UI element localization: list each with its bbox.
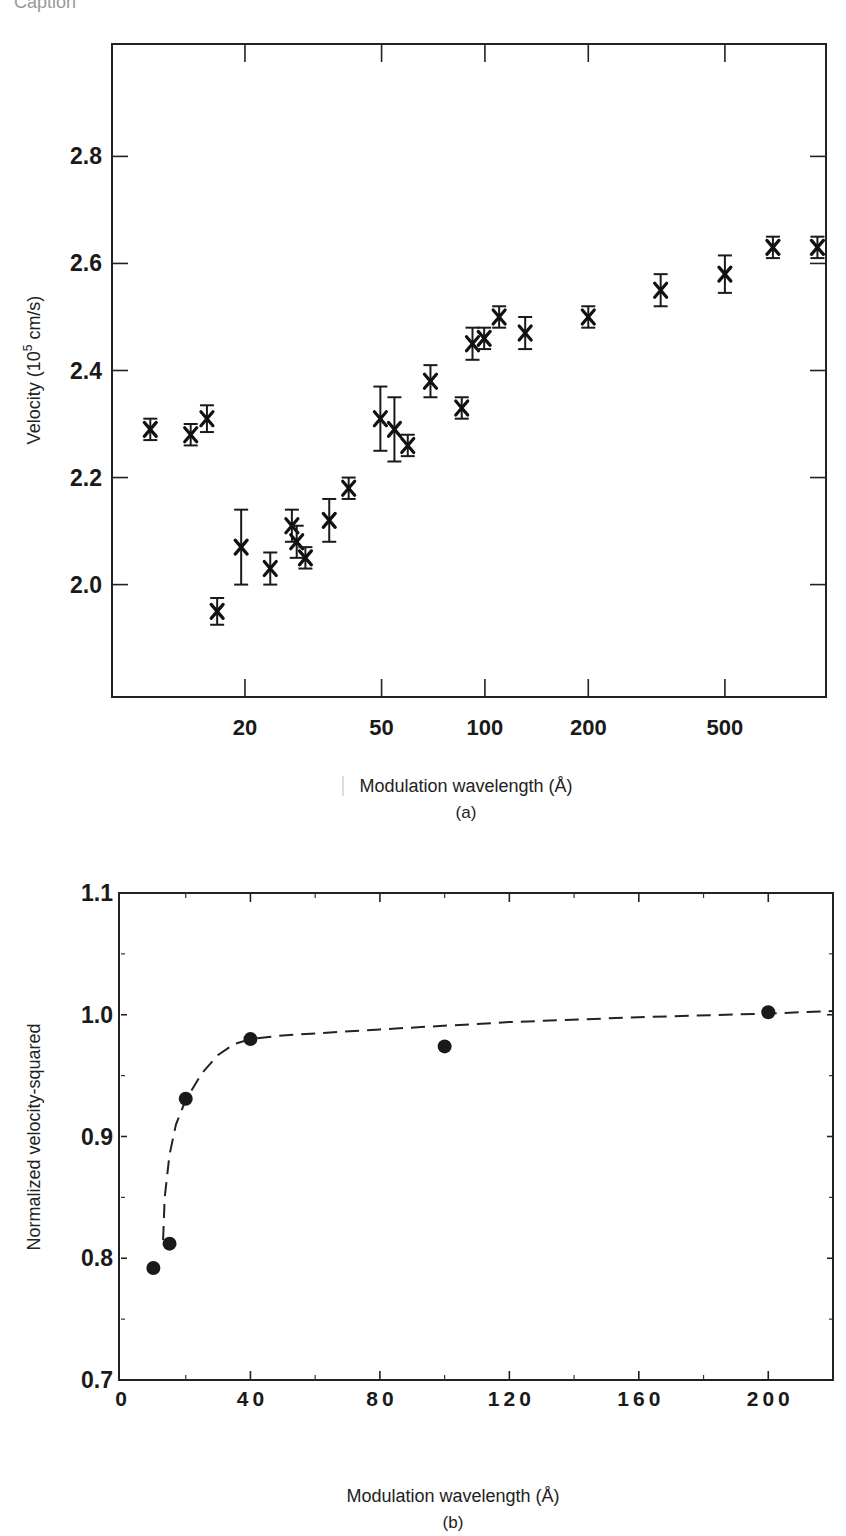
- plot-frame-a: [112, 44, 826, 697]
- panel-label-a: (a): [456, 803, 477, 822]
- y-tick-label: 0.7: [81, 1367, 113, 1393]
- data-point: [387, 397, 401, 461]
- data-point: [184, 424, 198, 445]
- y-axis-label-b: Normalized velocity-squared: [24, 1023, 44, 1250]
- data-point: [423, 365, 437, 397]
- data-point: [654, 274, 668, 306]
- data-point: [518, 317, 532, 349]
- y-tick-label: 1.1: [81, 880, 113, 906]
- axis-ticks-a: 20501002005002.02.22.42.62.8: [70, 44, 826, 740]
- x-tick-label: 500: [707, 715, 744, 740]
- data-point: [810, 237, 824, 258]
- y-tick-label: 2.2: [70, 465, 102, 491]
- x-axis-label-a: Modulation wavelength (Å): [359, 776, 572, 796]
- axis-ticks-b: 040801201602000.70.80.91.01.1: [81, 880, 833, 1410]
- data-points-b: [146, 1005, 775, 1275]
- data-point: [322, 499, 336, 542]
- y-tick-label: 2.0: [70, 572, 102, 598]
- x-tick-label: 200: [747, 1387, 794, 1410]
- data-point: [581, 306, 595, 327]
- data-point-dot-icon: [146, 1261, 160, 1275]
- data-point: [263, 552, 277, 584]
- chart-normalized-velocity-squared: 040801201602000.70.80.91.01.1 Normalized…: [24, 880, 833, 1532]
- x-tick-label: 120: [488, 1387, 535, 1410]
- data-point-dot-icon: [179, 1092, 193, 1106]
- data-point: [766, 237, 780, 258]
- data-point: [234, 510, 248, 585]
- data-point: [455, 397, 469, 418]
- data-point-dot-icon: [761, 1005, 775, 1019]
- data-point: [401, 435, 415, 456]
- plot-frame-b: [119, 893, 833, 1380]
- x-axis-label-b: Modulation wavelength (Å): [346, 1486, 559, 1506]
- data-point: [373, 387, 387, 451]
- y-tick-label: 2.6: [70, 250, 102, 276]
- data-point: [210, 598, 224, 625]
- data-point: [492, 306, 506, 327]
- y-tick-label: 2.8: [70, 143, 102, 169]
- y-axis-label-a: Velocity (105 cm/s): [21, 296, 44, 445]
- x-tick-label: 80: [366, 1387, 397, 1410]
- y-tick-label: 0.8: [81, 1245, 113, 1271]
- fit-curve-dashed: [163, 1011, 833, 1240]
- y-tick-label: 1.0: [81, 1002, 113, 1028]
- data-point-dot-icon: [438, 1039, 452, 1053]
- x-tick-label: 40: [237, 1387, 268, 1410]
- x-tick-label: 200: [570, 715, 607, 740]
- y-tick-label: 0.9: [81, 1124, 113, 1150]
- y-tick-label: 2.4: [70, 358, 102, 384]
- x-tick-label: 100: [467, 715, 504, 740]
- data-point: [200, 405, 214, 432]
- data-point-dot-icon: [163, 1237, 177, 1251]
- x-tick-label: 160: [617, 1387, 664, 1410]
- data-point: [342, 478, 356, 499]
- panel-label-b: (b): [443, 1513, 464, 1532]
- data-point: [718, 255, 732, 292]
- x-tick-label: 0: [115, 1387, 131, 1410]
- data-point: [477, 328, 491, 349]
- data-points-a: [143, 237, 824, 625]
- x-tick-label: 50: [369, 715, 393, 740]
- chart-velocity-vs-wavelength: 20501002005002.02.22.42.62.8 Velocity (1…: [21, 44, 826, 822]
- data-point-dot-icon: [243, 1032, 257, 1046]
- data-point: [143, 419, 157, 440]
- figure: 20501002005002.02.22.42.62.8 Velocity (1…: [0, 0, 846, 1536]
- x-tick-label: 20: [233, 715, 257, 740]
